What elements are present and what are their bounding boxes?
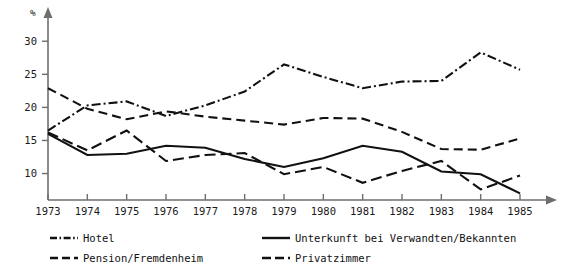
x-axis-tick-label: 1979 [271, 205, 296, 217]
y-axis-tick-label: 25 [24, 68, 37, 80]
y-axis-unit-label: % [30, 7, 36, 18]
x-axis-arrowhead [546, 196, 557, 205]
x-axis-tick-label: 1983 [429, 205, 454, 217]
x-axis-tick-label: 1978 [232, 205, 257, 217]
x-axis-tick-label: 1973 [35, 205, 60, 217]
chart-container: % 1015202530 197319741975197619771978197… [0, 0, 571, 274]
legend-label-unterkunft-bei-verwandten-bekannten: Unterkunft bei Verwandten/Bekannten [295, 232, 516, 244]
x-axis-tick-label: 1975 [114, 205, 139, 217]
y-axis-tick-label: 15 [24, 134, 37, 146]
legend-label-pension-fremdenheim: Pension/Fremdenheim [83, 252, 203, 264]
x-axis-tick-label: 1977 [193, 205, 218, 217]
data-series-group [48, 52, 520, 193]
x-axis-tick-label: 1980 [311, 205, 336, 217]
x-axis-tick-label: 1976 [153, 205, 178, 217]
series-line-hotel [48, 52, 520, 130]
y-axis-tick-label: 30 [24, 35, 37, 47]
chart-legend: HotelUnterkunft bei Verwandten/Bekannten… [50, 232, 516, 264]
y-axis-tick-label: 10 [24, 167, 37, 179]
y-axis-ticks: 1015202530 [24, 35, 48, 179]
y-axis-tick-label: 20 [24, 101, 37, 113]
line-chart: % 1015202530 197319741975197619771978197… [0, 0, 571, 274]
x-axis-tick-label: 1982 [389, 205, 414, 217]
y-axis-arrowhead [44, 7, 53, 18]
x-axis-tick-label: 1984 [468, 205, 493, 217]
legend-label-privatzimmer: Privatzimmer [295, 252, 371, 264]
x-axis-tick-label: 1974 [75, 205, 100, 217]
x-axis-ticks: 1973197419751976197719781979198019811982… [35, 194, 532, 217]
series-line-unterkunft-bei-verwandten-bekannten [48, 134, 520, 194]
series-line-privatzimmer [48, 131, 520, 190]
legend-label-hotel: Hotel [83, 232, 115, 244]
x-axis-tick-label: 1985 [507, 205, 532, 217]
x-axis-tick-label: 1981 [350, 205, 375, 217]
series-line-pension-fremdenheim [48, 88, 520, 150]
